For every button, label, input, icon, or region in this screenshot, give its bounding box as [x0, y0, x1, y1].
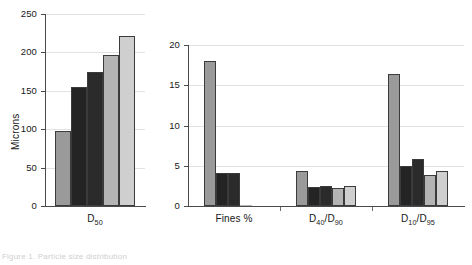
chart-panel-d50: Microns 050100150200250D50: [0, 0, 155, 250]
x-axis-line: [45, 206, 146, 207]
x-axis-category-label: Fines %: [188, 213, 280, 224]
bar: [400, 166, 412, 206]
y-axis-tick-label: 250: [3, 8, 37, 19]
figure-particle-size: Microns 050100150200250D50 05101520Fines…: [0, 0, 472, 265]
bar: [388, 74, 400, 206]
bar: [436, 171, 448, 206]
x-axis-category-label: D10/D95: [372, 213, 464, 227]
bar: [228, 173, 240, 206]
bar: [240, 205, 252, 206]
bar: [71, 87, 87, 206]
bar: [204, 61, 216, 206]
gridline: [188, 85, 464, 86]
x-axis-tick: [372, 207, 373, 211]
bar: [216, 173, 228, 206]
x-axis-category-label: D40/D90: [280, 213, 372, 227]
bar: [320, 186, 332, 206]
gridline: [188, 45, 464, 46]
bar: [55, 131, 71, 206]
bar: [308, 187, 320, 206]
gridline: [45, 14, 145, 15]
y-axis-tick-label: 0: [146, 200, 180, 211]
y-axis-tick-label: 150: [3, 85, 37, 96]
y-axis-tick-label: 5: [146, 160, 180, 171]
y-axis-tick-label: 15: [146, 79, 180, 90]
y-axis-line: [188, 45, 189, 207]
y-axis-tick-label: 200: [3, 46, 37, 57]
bar: [87, 72, 103, 206]
chart-panel-ratios: 05101520Fines %D40/D90D10/D95: [160, 0, 472, 250]
y-axis-tick-label: 50: [3, 162, 37, 173]
y-axis-tick-label: 20: [146, 39, 180, 50]
bar: [424, 175, 436, 206]
gridline: [188, 126, 464, 127]
figure-caption: Figure 1. Particle size distribution: [2, 252, 468, 261]
x-axis-category-label: D50: [45, 213, 145, 227]
bar: [344, 186, 356, 206]
y-axis-line: [45, 14, 46, 207]
bar: [412, 159, 424, 206]
y-axis-tick-label: 100: [3, 123, 37, 134]
bar: [103, 55, 119, 206]
y-axis-tick-label: 10: [146, 120, 180, 131]
bar: [332, 188, 344, 206]
bar: [296, 171, 308, 206]
x-axis-tick: [280, 207, 281, 211]
y-axis-tick-label: 0: [3, 200, 37, 211]
x-axis-line: [188, 206, 465, 207]
bar: [119, 36, 135, 206]
